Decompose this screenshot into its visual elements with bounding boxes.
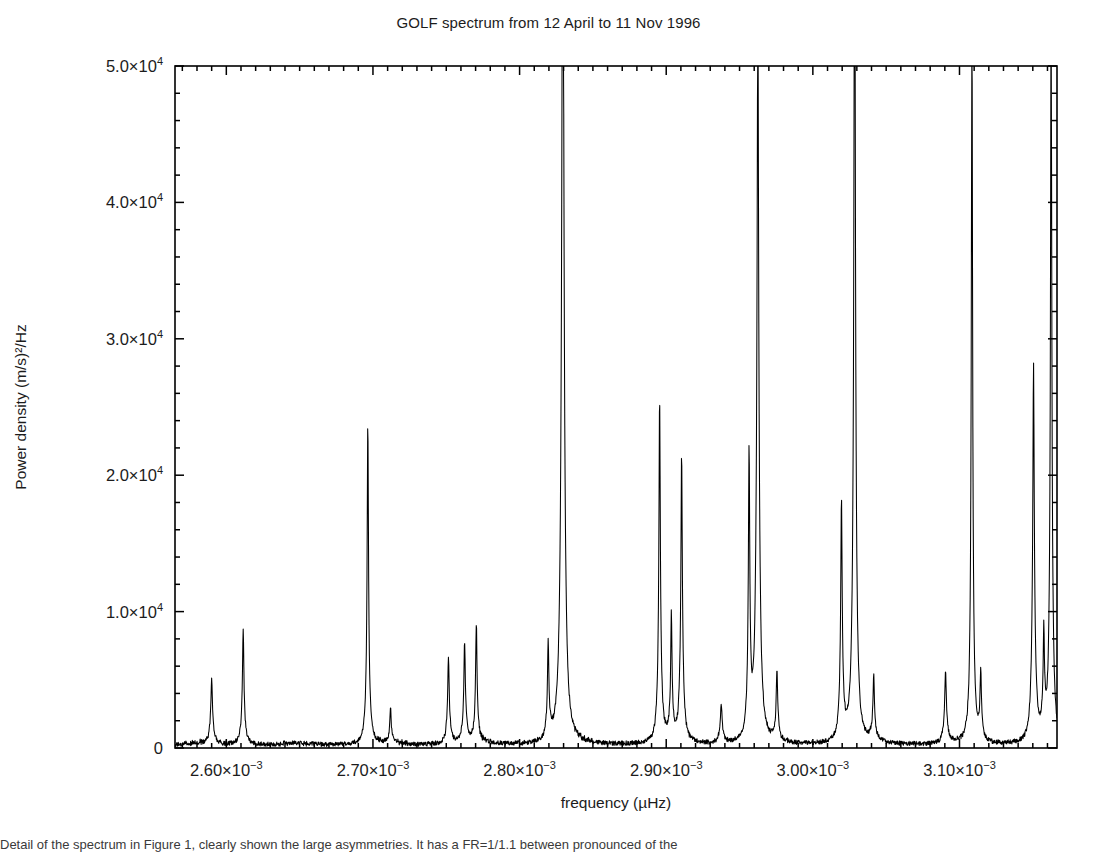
svg-text:4.0×104: 4.0×104 bbox=[106, 191, 163, 211]
svg-text:2.90×10−3: 2.90×10−3 bbox=[630, 759, 703, 779]
svg-text:frequency (µHz): frequency (µHz) bbox=[561, 794, 672, 811]
axis-titles: frequency (µHz)Power density (m/s)²/Hz bbox=[12, 324, 671, 811]
spectrum-trace bbox=[175, 52, 1057, 746]
svg-text:5.0×104: 5.0×104 bbox=[106, 55, 163, 75]
axes-group bbox=[175, 66, 1057, 748]
svg-text:Power density (m/s)²/Hz: Power density (m/s)²/Hz bbox=[12, 324, 29, 489]
svg-text:2.0×104: 2.0×104 bbox=[106, 464, 163, 484]
tick-marks bbox=[175, 66, 1057, 748]
svg-text:0: 0 bbox=[154, 739, 163, 757]
svg-text:2.60×10−3: 2.60×10−3 bbox=[190, 759, 263, 779]
svg-text:2.80×10−3: 2.80×10−3 bbox=[483, 759, 556, 779]
svg-text:3.10×10−3: 3.10×10−3 bbox=[923, 759, 996, 779]
tick-labels: 2.60×10−32.70×10−32.80×10−32.90×10−33.00… bbox=[106, 55, 996, 779]
svg-text:2.70×10−3: 2.70×10−3 bbox=[337, 759, 410, 779]
svg-text:1.0×104: 1.0×104 bbox=[106, 601, 163, 621]
svg-text:3.00×10−3: 3.00×10−3 bbox=[777, 759, 850, 779]
figure-container: GOLF spectrum from 12 April to 11 Nov 19… bbox=[0, 0, 1097, 853]
spectrum-plot: 2.60×10−32.70×10−32.80×10−32.90×10−33.00… bbox=[0, 0, 1097, 853]
figure-caption: Detail of the spectrum in Figure 1, clea… bbox=[0, 836, 1097, 853]
svg-text:3.0×104: 3.0×104 bbox=[106, 328, 163, 348]
